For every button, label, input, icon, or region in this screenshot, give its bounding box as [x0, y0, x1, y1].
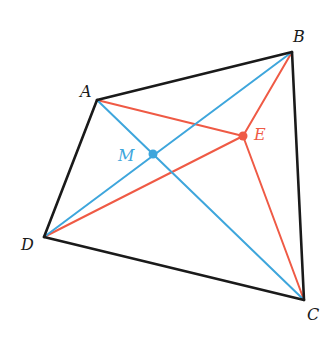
side-BC — [292, 52, 304, 300]
point-E — [239, 132, 248, 141]
diagonal-AC — [97, 100, 304, 300]
quadrilateral-diagram: ABCDME — [0, 0, 331, 343]
points — [149, 132, 248, 159]
label-C: C — [307, 305, 319, 324]
side-AB — [97, 52, 292, 100]
segment-CE — [243, 136, 304, 300]
label-M: M — [117, 146, 135, 165]
side-CD — [44, 237, 304, 300]
diagonal-BD — [44, 52, 292, 237]
label-A: A — [78, 82, 92, 101]
label-E: E — [253, 125, 266, 144]
label-B: B — [292, 27, 305, 46]
segment-DE — [44, 136, 243, 237]
point-labels: ABCDME — [20, 27, 319, 324]
segment-BE — [243, 52, 292, 136]
point-M — [149, 150, 158, 159]
label-D: D — [20, 235, 34, 254]
